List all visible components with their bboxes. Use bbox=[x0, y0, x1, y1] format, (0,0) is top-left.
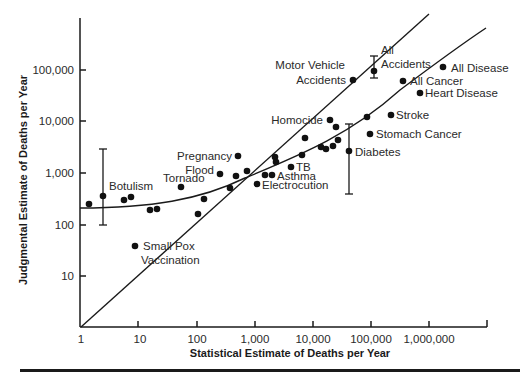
label-all-accidents: All bbox=[381, 44, 394, 56]
identity-line bbox=[81, 14, 429, 327]
data-point-flood bbox=[217, 171, 224, 178]
data-point bbox=[302, 135, 309, 142]
data-point bbox=[333, 124, 340, 131]
data-point bbox=[233, 173, 240, 180]
data-point bbox=[364, 114, 371, 121]
data-point-botulism bbox=[100, 193, 107, 200]
data-point bbox=[269, 172, 276, 179]
data-point bbox=[227, 185, 234, 192]
data-point-stomach-cancer bbox=[367, 131, 374, 138]
data-point-motor-vehicle-accidents bbox=[350, 77, 357, 84]
x-tick-label: 10 bbox=[134, 333, 147, 345]
label-pregnancy: Pregnancy bbox=[177, 150, 232, 162]
label-all-accidents: Accidents bbox=[381, 58, 431, 70]
data-point-stroke bbox=[388, 112, 395, 119]
error-bar-all-accidents bbox=[370, 56, 378, 78]
x-tick-label: 10,000 bbox=[295, 333, 330, 345]
data-point-homocide bbox=[327, 117, 334, 124]
x-tick-label: 100,000 bbox=[350, 333, 392, 345]
data-point bbox=[299, 152, 306, 159]
label-diabetes: Diabetes bbox=[355, 146, 401, 158]
data-point bbox=[244, 168, 251, 175]
data-point-pregnancy bbox=[235, 153, 242, 160]
data-point bbox=[330, 143, 337, 150]
label-small-pox: Small Pox bbox=[143, 240, 195, 252]
y-tick-label: 10,000 bbox=[39, 115, 74, 127]
label-tornado: Tornado bbox=[163, 172, 205, 184]
data-point-diabetes bbox=[346, 148, 353, 155]
data-point-electrocution bbox=[254, 181, 261, 188]
bottom-rule bbox=[20, 369, 520, 372]
data-point bbox=[273, 159, 280, 166]
x-tick-label: 1 bbox=[78, 333, 84, 345]
x-tick-label: 1,000,000 bbox=[403, 333, 454, 345]
x-tick-label: 100 bbox=[187, 333, 206, 345]
label-electrocution: Electrocution bbox=[262, 179, 328, 191]
data-point bbox=[121, 197, 128, 204]
data-point-tornado bbox=[178, 184, 185, 191]
label-all-disease: All Disease bbox=[451, 62, 509, 74]
x-axis-title: Statistical Estimate of Deaths per Year bbox=[190, 347, 391, 359]
label-small-pox: Vaccination bbox=[141, 254, 200, 266]
data-point-all-accidents bbox=[371, 68, 378, 75]
y-axis bbox=[80, 18, 86, 327]
y-tick-label: 100 bbox=[55, 219, 74, 231]
data-point bbox=[147, 207, 154, 214]
risk-perception-chart: 100,000 10,000 1,000 100 10 1 10 100 1,0… bbox=[0, 0, 520, 378]
data-point bbox=[154, 206, 161, 213]
data-point-all-cancer bbox=[400, 78, 407, 85]
label-stroke: Stroke bbox=[396, 109, 429, 121]
data-point bbox=[335, 137, 342, 144]
x-tick-label: 1,000 bbox=[241, 333, 270, 345]
label-motor-vehicle: Accidents bbox=[296, 74, 346, 86]
y-tick-label: 1,000 bbox=[45, 167, 74, 179]
data-point-all-disease bbox=[440, 64, 447, 71]
data-point-heart-disease bbox=[417, 90, 424, 97]
x-tick-labels: 1 10 100 1,000 10,000 100,000 1,000,000 bbox=[78, 333, 455, 345]
label-botulism: Botulism bbox=[109, 180, 153, 192]
error-bar-diabetes bbox=[345, 124, 353, 194]
data-point bbox=[195, 211, 202, 218]
data-point-asthma bbox=[262, 172, 269, 179]
y-tick-label: 100,000 bbox=[32, 64, 74, 76]
y-tick-label: 10 bbox=[61, 270, 74, 282]
y-axis-title: Judgmental Estimate of Deaths per Year bbox=[17, 74, 29, 285]
point-labels: Motor Vehicle Accidents All Accidents Al… bbox=[109, 44, 509, 266]
x-axis bbox=[80, 320, 487, 327]
data-point bbox=[323, 146, 330, 153]
data-point-small-pox bbox=[132, 243, 139, 250]
label-motor-vehicle: Motor Vehicle bbox=[275, 59, 345, 71]
label-stomach-cancer: Stomach Cancer bbox=[376, 128, 462, 140]
error-bar-botulism bbox=[99, 149, 107, 225]
y-tick-labels: 100,000 10,000 1,000 100 10 bbox=[32, 64, 74, 282]
label-homocide: Homocide bbox=[271, 114, 323, 126]
data-point bbox=[86, 201, 93, 208]
data-point bbox=[201, 196, 208, 203]
data-point bbox=[128, 194, 135, 201]
label-all-cancer: All Cancer bbox=[410, 75, 463, 87]
label-heart-disease: Heart Disease bbox=[425, 87, 498, 99]
